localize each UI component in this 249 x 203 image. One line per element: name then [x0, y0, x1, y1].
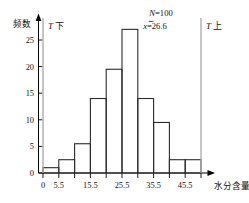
histogram-bars: [43, 29, 201, 173]
upper-spec-limit-symbol: T: [206, 21, 212, 31]
lower-spec-limit-suffix: 下: [55, 21, 64, 31]
histogram-chart: 0 5 10 15 20 25 频数 0 5.5 15.5: [0, 0, 249, 203]
lower-spec-limit-label: T下: [48, 21, 64, 31]
x-tick-label-1: 5.5: [54, 181, 64, 190]
mean-annotation-group: x=26.6: [142, 21, 167, 31]
bar-bin-9: [185, 160, 201, 173]
x-tick-label-3: 15.5: [83, 181, 98, 190]
upper-spec-limit-label: T上: [206, 21, 222, 31]
bar-bin-6: [138, 99, 154, 173]
upper-spec-limit-suffix: 上: [213, 21, 222, 31]
x-axis-arrow: [208, 170, 216, 176]
x-axis-title: 水分含量: [214, 180, 249, 191]
sample-size-value: =100: [155, 8, 173, 18]
mean-value: =26.6: [147, 21, 168, 31]
bar-bin-3: [90, 99, 106, 173]
y-tick-label-20: 20: [26, 63, 34, 72]
bar-bin-7: [154, 122, 170, 173]
y-tick-label-15: 15: [26, 89, 34, 98]
bar-bin-0: [43, 168, 59, 173]
bar-bin-2: [75, 144, 91, 173]
bar-bin-8: [169, 160, 185, 173]
y-axis-arrow: [36, 14, 42, 22]
x-tick-label-7: 35.5: [146, 181, 161, 190]
y-tick-label-0: 0: [30, 169, 34, 178]
bar-bin-4: [106, 69, 122, 173]
x-axis-ticks: [43, 173, 201, 178]
x-tick-label-5: 25.5: [115, 181, 130, 190]
y-tick-label-5: 5: [30, 142, 34, 151]
x-tick-label-9: 45.5: [178, 181, 193, 190]
lower-spec-limit-symbol: T: [48, 21, 54, 31]
bar-bin-1: [59, 160, 75, 173]
y-axis-ticks: [39, 40, 43, 173]
y-axis-title: 频数: [13, 18, 31, 29]
y-tick-label-10: 10: [26, 116, 34, 125]
y-tick-label-25: 25: [26, 36, 34, 45]
sample-size-annotation: N=100: [148, 8, 172, 18]
bar-bin-5: [122, 29, 138, 173]
mean-annotation: x=26.6: [142, 21, 167, 31]
x-axis-tick-labels: 0 5.5 15.5 25.5 35.5 45.5: [41, 181, 193, 190]
chart-canvas: 0 5 10 15 20 25 频数 0 5.5 15.5: [0, 0, 249, 203]
x-tick-label-0: 0: [41, 181, 45, 190]
y-axis-tick-labels: 0 5 10 15 20 25: [26, 36, 34, 178]
